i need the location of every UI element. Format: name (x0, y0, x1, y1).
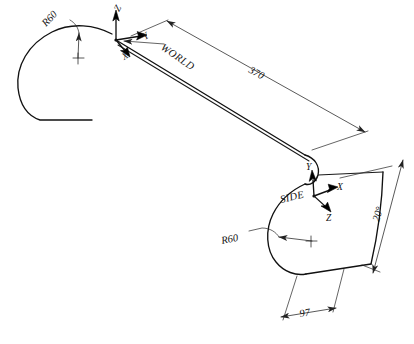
dim-97-text: 97 (299, 306, 312, 319)
world-axis-z-label: Z (112, 3, 124, 13)
world-cs-label: WORLD (159, 42, 197, 72)
side-axis-z-label: Z (326, 213, 332, 223)
side-axis-y-arrow (309, 170, 316, 196)
technical-drawing-svg: Z Y X WORLD Y X (0, 0, 414, 344)
world-coordinate-system: Z Y X WORLD (112, 3, 197, 72)
dimension-370: 370 (131, 20, 368, 150)
right-profile-outline (268, 172, 383, 275)
dim-20-ext-top (340, 166, 392, 178)
side-cs-label: SIDE (279, 189, 305, 205)
dim-20-ext-bottom (362, 265, 380, 272)
dimension-20: 20° (340, 160, 403, 273)
radius-top-left-text: R60 (39, 8, 60, 29)
drawing-canvas: Z Y X WORLD Y X (0, 0, 414, 344)
dimension-97: 97 (281, 269, 344, 320)
dim-97-ext-left (283, 276, 297, 320)
side-axis-z-arrow (314, 196, 331, 212)
left-profile-outline (18, 26, 112, 120)
radius-side-line (279, 237, 312, 241)
dim-370-ext-end (312, 131, 368, 150)
dim-370-ext-start (131, 20, 168, 36)
side-coordinate-system: Y X Z SIDE (279, 162, 344, 223)
radius-side-text: R60 (219, 232, 239, 246)
dim-370-text: 370 (246, 64, 267, 82)
world-axis-z-arrow (113, 10, 119, 40)
dim-97-ext-right (333, 269, 344, 312)
side-axis-x-arrow (314, 184, 338, 196)
sweep-body-edges (116, 40, 318, 185)
side-axis-x-label: X (336, 182, 344, 192)
center-mark-side (306, 236, 317, 247)
dim-20-text: 20° (370, 205, 385, 223)
world-label-leader (124, 41, 164, 44)
dim-370-line (167, 21, 365, 132)
radius-side-leader (249, 228, 279, 237)
